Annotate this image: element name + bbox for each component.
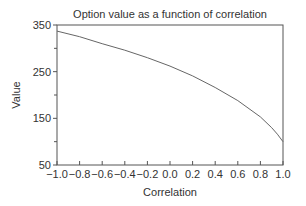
x-tick-label: −1.0 [46,168,68,180]
plot-frame [57,25,283,165]
x-tick-label: −0.6 [91,168,113,180]
x-tick-label: 1.0 [275,168,290,180]
chart-title: Option value as a function of correlatio… [73,8,267,20]
x-tick-label: 0.8 [253,168,268,180]
x-tick-label: 0.2 [185,168,200,180]
x-tick-label: 0.0 [162,168,177,180]
x-axis: −1.0−0.8−0.6−0.4−0.20.00.20.40.60.81.0 [46,161,291,180]
x-axis-label: Correlation [143,186,197,198]
y-axis-label: Value [10,81,22,108]
x-tick-label: 0.4 [208,168,223,180]
y-tick-label: 350 [33,19,51,31]
y-tick-label: 250 [33,66,51,78]
x-tick-label: −0.2 [137,168,159,180]
y-axis: 50150250350 [33,19,57,171]
x-tick-label: −0.8 [69,168,91,180]
y-tick-label: 150 [33,112,51,124]
x-tick-label: 0.6 [230,168,245,180]
series-line-option-value [57,31,283,142]
line-chart: Option value as a function of correlatio… [0,0,306,206]
x-tick-label: −0.4 [114,168,136,180]
